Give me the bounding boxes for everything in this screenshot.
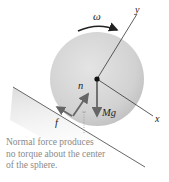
weight-label: Mg: [102, 108, 116, 119]
y-axis-label: y: [135, 5, 139, 15]
normal-force-label: n: [78, 81, 83, 92]
figure-caption: Normal force produces no torque about th…: [6, 137, 116, 172]
caption-line: no torque about the center: [6, 149, 116, 161]
caption-line: Normal force produces: [6, 137, 116, 149]
sphere-on-incline-diagram: ω y x n Mg f Normal force produces no to…: [0, 0, 169, 182]
x-axis-label: x: [155, 114, 159, 124]
friction-label: f: [55, 118, 58, 129]
rotation-arrow-icon: [78, 26, 117, 31]
omega-label: ω: [93, 11, 101, 22]
caption-line: of the sphere.: [6, 160, 116, 172]
center-point: [94, 76, 99, 81]
